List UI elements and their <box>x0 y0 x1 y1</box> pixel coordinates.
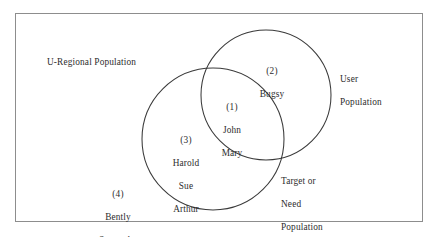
target-population-label-line-1: Target or <box>281 176 365 187</box>
region-4-member-samantha: Samantha <box>81 235 155 237</box>
universe-label: U-Regional Population <box>47 57 136 68</box>
region-1-member-mary: Mary <box>209 148 255 159</box>
region-3-member-arthur: Arthur <box>158 204 214 215</box>
region-3-member-harold: Harold <box>158 158 214 169</box>
target-or-need-population-label: Target or Need Population <box>281 165 365 237</box>
region-2-number: (2) <box>244 66 300 77</box>
region-3-member-sue: Sue <box>158 181 214 192</box>
region-3-number: (3) <box>158 135 214 146</box>
user-population-label-line-2: Population <box>340 97 420 108</box>
target-population-label-line-3: Population <box>281 222 365 233</box>
region-1-content: (1) John Mary <box>209 91 255 171</box>
target-population-label-line-2: Need <box>281 199 365 210</box>
region-4-content: (4) Bently Samantha <box>81 178 155 237</box>
region-1-member-john: John <box>209 125 255 136</box>
region-1-number: (1) <box>209 102 255 113</box>
venn-diagram-figure: U-Regional Population (2) Bugsy User Pop… <box>0 0 439 237</box>
region-4-member-bently: Bently <box>81 212 155 223</box>
region-3-content: (3) Harold Sue Arthur <box>158 124 214 227</box>
user-population-label-line-1: User <box>340 74 420 85</box>
user-population-label: User Population <box>340 63 420 120</box>
region-4-number: (4) <box>81 189 155 200</box>
